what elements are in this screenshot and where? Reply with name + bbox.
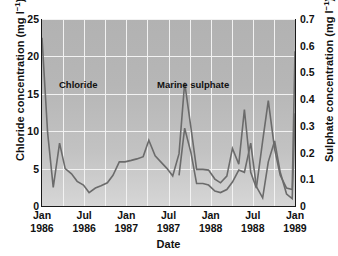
x-axis-title: Date xyxy=(42,238,295,250)
y-axis-title-left: Chloride concentration (mg l−1) xyxy=(12,0,26,175)
xtick-jul-1988: Jul 1988 xyxy=(231,209,275,234)
xtick-year: 1989 xyxy=(273,222,317,235)
y-axis-title-right-text: Sulphate concentration (mg l−1) xyxy=(323,0,335,162)
ytick-left-15: 15 xyxy=(27,88,39,100)
series-lines xyxy=(42,19,295,206)
xtick-year: 1988 xyxy=(189,222,233,235)
xtick-month: Jan xyxy=(104,209,148,222)
ytick-right-0.7: 0.7 xyxy=(300,13,315,25)
xtick-year: 1987 xyxy=(104,222,148,235)
xtick-jan-1988: Jan 1988 xyxy=(189,209,233,234)
ytick-right-0.4: 0.4 xyxy=(300,93,315,105)
xtick-month: Jan xyxy=(20,209,64,222)
ytick-right-0.3: 0.3 xyxy=(300,120,315,132)
y-axis-title-right: Sulphate concentration (mg l−1) xyxy=(321,0,335,175)
ytick-right-0.6: 0.6 xyxy=(300,40,315,52)
xtick-month: Jul xyxy=(231,209,275,222)
annotation-marine-sulphate: Marine sulphate xyxy=(157,79,229,90)
xtick-year: 1986 xyxy=(20,222,64,235)
y-axis-title-left-text: Chloride concentration (mg l−1) xyxy=(14,0,26,161)
xtick-year: 1988 xyxy=(231,222,275,235)
ytick-left-20: 20 xyxy=(27,50,39,62)
axis-line-right xyxy=(295,19,296,207)
axis-line-left xyxy=(41,19,42,207)
ytick-left-10: 10 xyxy=(27,125,39,137)
ytick-right-0.1: 0.1 xyxy=(300,173,315,185)
xtick-jan-1989: Jan 1989 xyxy=(273,209,317,234)
annotation-chloride: Chloride xyxy=(59,79,98,90)
axis-line-bottom xyxy=(41,206,296,207)
xtick-jul-1986: Jul 1986 xyxy=(62,209,106,234)
xtick-month: Jul xyxy=(147,209,191,222)
plot-area: Chloride Marine sulphate xyxy=(42,19,295,206)
line-chloride xyxy=(42,38,295,193)
xtick-month: Jul xyxy=(62,209,106,222)
xtick-year: 1987 xyxy=(147,222,191,235)
xtick-year: 1986 xyxy=(62,222,106,235)
xtick-month: Jan xyxy=(189,209,233,222)
xtick-jan-1987: Jan 1987 xyxy=(104,209,148,234)
chart-figure: Chloride Marine sulphate 25 20 15 10 5 0… xyxy=(0,0,338,256)
xtick-month: Jan xyxy=(273,209,317,222)
xtick-jan-1986: Jan 1986 xyxy=(20,209,64,234)
line-marine-sulphate xyxy=(179,113,295,198)
ytick-left-25: 25 xyxy=(27,13,39,25)
ytick-right-0.2: 0.2 xyxy=(300,147,315,159)
ytick-left-5: 5 xyxy=(33,163,39,175)
xtick-jul-1987: Jul 1987 xyxy=(147,209,191,234)
ytick-right-0.5: 0.5 xyxy=(300,66,315,78)
